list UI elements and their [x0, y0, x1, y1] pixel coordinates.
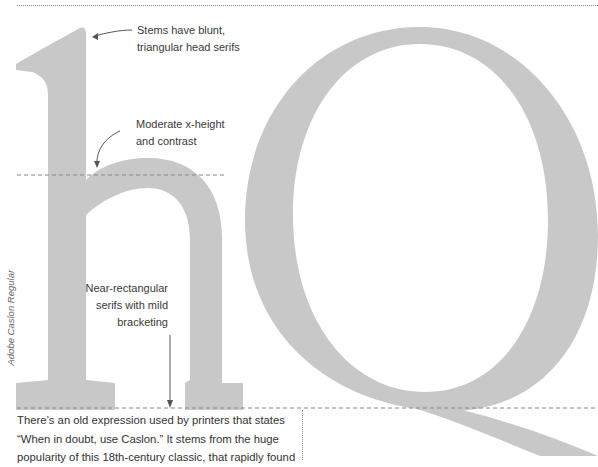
annotation-foot-serifs: Near-rectangular serifs with mild bracke…: [70, 280, 168, 331]
typeface-label: Adobe Caslon Regular: [5, 286, 16, 366]
column-divider: [302, 410, 303, 460]
annotation-head-serifs: Stems have blunt, triangular head serifs: [137, 22, 240, 56]
arrow-head-serifs: [95, 30, 132, 36]
arrow-x-height: [97, 131, 120, 165]
glyph-q: [245, 27, 598, 456]
annotation-arrows: [95, 30, 170, 405]
annotation-x-height: Moderate x-height and contrast: [136, 116, 225, 150]
body-paragraph: There’s an old expression used by printe…: [17, 411, 307, 467]
glyph-h: [16, 27, 243, 410]
